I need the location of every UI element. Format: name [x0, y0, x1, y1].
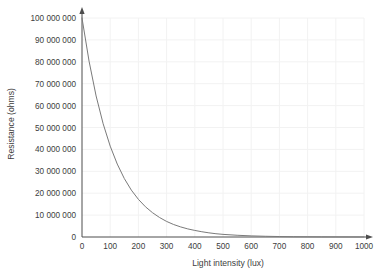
x-tick-label: 300 [160, 242, 174, 251]
y-tick-label: 100 000 000 [30, 14, 76, 23]
y-tick-label: 60 000 000 [35, 102, 76, 111]
y-tick-label: 50 000 000 [35, 124, 76, 133]
x-tick-label: 0 [80, 242, 85, 251]
x-tick-label: 800 [301, 242, 315, 251]
x-tick-label: 600 [244, 242, 258, 251]
y-tick-label: 70 000 000 [35, 80, 76, 89]
x-tick-label: 100 [103, 242, 117, 251]
y-tick-label: 40 000 000 [35, 145, 76, 154]
resistance-vs-light-intensity-chart: 01002003004005006007008009001000 010 000… [0, 0, 376, 270]
y-tick-label: 80 000 000 [35, 58, 76, 67]
y-tick-label: 10 000 000 [35, 211, 76, 220]
chart-figure: 01002003004005006007008009001000 010 000… [0, 0, 376, 270]
x-axis-title: Light intensity (lux) [192, 258, 264, 268]
y-tick-label: 20 000 000 [35, 189, 76, 198]
x-tick-label: 200 [132, 242, 146, 251]
x-tick-label: 500 [216, 242, 230, 251]
y-tick-label: 30 000 000 [35, 167, 76, 176]
x-tick-label: 400 [188, 242, 202, 251]
x-tick-label: 700 [273, 242, 287, 251]
x-tick-label: 1000 [355, 242, 374, 251]
y-tick-label: 0 [71, 233, 76, 242]
y-tick-label: 90 000 000 [35, 36, 76, 45]
x-tick-label: 900 [329, 242, 343, 251]
y-axis-title: Resistance (ohms) [6, 88, 16, 160]
